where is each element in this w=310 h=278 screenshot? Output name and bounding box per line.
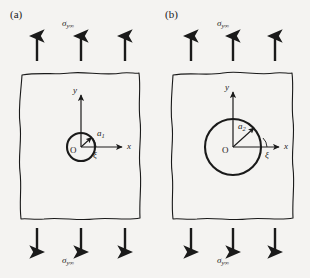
panel-a-x-axis-label: x [127,141,131,151]
panel-a-origin-label: O [70,145,77,155]
panel-a-plate-outline [19,73,140,220]
panel-b-drawing [155,0,310,278]
panel-a: (a) σy∞ σy∞ [0,0,155,278]
panel-b-bottom-arrows [191,228,275,252]
panel-b-x-axis-label: x [284,141,288,151]
panel-b-top-stress-label: σy∞ [217,18,229,29]
panel-a-bottom-arrows [37,228,125,252]
panel-b-origin-label: O [222,145,229,155]
panel-a-top-arrows [37,36,125,61]
panel-b: (b) [155,0,310,278]
panel-b-radius-label: a2 [238,121,246,132]
figure-container: (a) σy∞ σy∞ [0,0,310,278]
panel-a-y-axis-label: y [73,85,77,95]
panel-b-bottom-stress-label: σy∞ [217,255,229,266]
panel-a-radius-arrow [81,138,92,148]
panel-a-drawing [0,0,155,278]
panel-a-angle-label: ξ [93,150,97,160]
panel-b-angle-label: ξ [265,150,269,160]
panel-b-angle-arc [263,138,267,147]
panel-b-y-axis-label: y [225,82,229,92]
panel-a-radius-label: a1 [97,128,105,139]
panel-b-top-arrows [191,36,275,61]
